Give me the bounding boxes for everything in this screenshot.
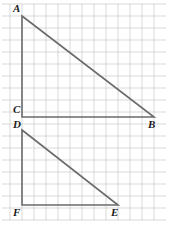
vertex-label-f: F [13,207,20,218]
vertex-label-e: E [111,207,118,218]
vertex-label-b: B [148,119,155,130]
vertex-label-c: C [13,104,20,115]
vertex-label-d: D [13,119,21,130]
triangle-def [22,130,118,205]
vertex-label-a: A [13,3,20,14]
triangle-abc [22,16,154,117]
geometry-figure: A B C D E F [0,0,169,229]
triangles-layer [0,0,169,229]
